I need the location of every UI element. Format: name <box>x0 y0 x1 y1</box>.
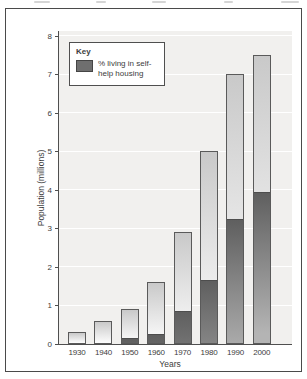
y-tick-label: 7 <box>33 69 52 80</box>
bar-1960 <box>147 282 165 344</box>
legend-title: Key <box>76 47 158 56</box>
cropped-text-artifact <box>0 0 307 5</box>
y-tick <box>55 344 59 345</box>
bar-segment-self-help <box>148 334 164 343</box>
gridline <box>59 35 292 36</box>
y-tick-label: 5 <box>33 146 52 157</box>
bar-2000 <box>253 55 271 344</box>
y-tick-label: 4 <box>33 185 52 196</box>
bar-1930 <box>68 332 86 344</box>
y-tick <box>55 74 59 75</box>
x-tick-label: 2000 <box>247 348 277 358</box>
y-tick <box>55 113 59 114</box>
y-tick <box>55 305 59 306</box>
bar-1980 <box>200 151 218 344</box>
figure: Population (millions) Key % living in se… <box>0 0 307 379</box>
bar-segment-self-help <box>227 219 243 343</box>
y-tick <box>55 190 59 191</box>
y-tick-label: 6 <box>33 108 52 119</box>
legend-label: % living in self-help housing <box>98 59 158 79</box>
x-axis-title: Years <box>140 359 200 369</box>
legend: Key % living in self-help housing <box>69 42 165 86</box>
bar-segment-self-help <box>201 280 217 343</box>
y-tick <box>55 36 59 37</box>
bar-1940 <box>94 321 112 344</box>
bar-1950 <box>121 309 139 344</box>
y-tick <box>55 151 59 152</box>
bar-segment-self-help <box>175 311 191 343</box>
chart-frame: Population (millions) Key % living in se… <box>5 8 302 372</box>
y-tick-label: 0 <box>33 339 52 350</box>
legend-item: % living in self-help housing <box>76 59 158 79</box>
y-tick-label: 2 <box>33 262 52 273</box>
bar-segment-self-help <box>254 192 270 343</box>
bar-1970 <box>174 232 192 344</box>
bar-1990 <box>226 74 244 344</box>
y-tick-label: 8 <box>33 31 52 42</box>
y-tick-label: 1 <box>33 300 52 311</box>
y-tick-label: 3 <box>33 223 52 234</box>
plot-area: Population (millions) Key % living in se… <box>58 31 292 345</box>
y-tick <box>55 267 59 268</box>
y-tick <box>55 228 59 229</box>
legend-swatch <box>76 60 93 72</box>
bar-segment-self-help <box>122 338 138 343</box>
